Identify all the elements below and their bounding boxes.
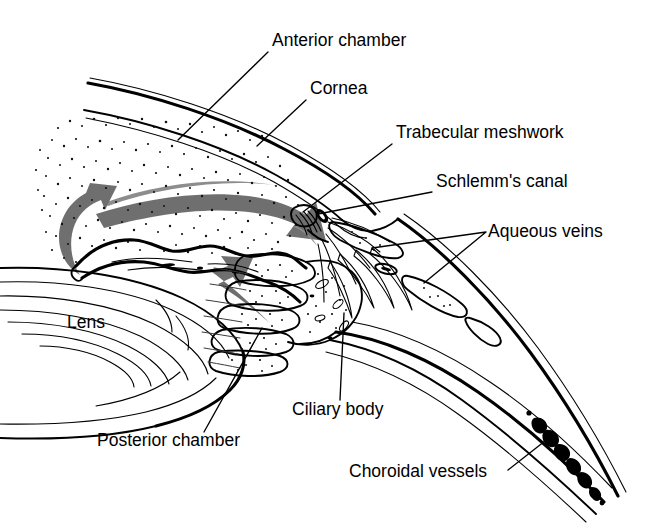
label-posterior-chamber: Posterior chamber [97,430,240,450]
label-schlemms-canal: Schlemm's canal [436,171,568,191]
choroidal-vessel-dot-1 [526,410,531,415]
iris-crypt-dot-2 [197,267,203,270]
eye-anatomy-drawing: Lens [0,0,666,529]
ciliary-vessel-dot-1 [310,295,315,298]
label-aqueous-veins: Aqueous veins [488,221,603,241]
choroidal-vessel-dot-2 [600,501,605,506]
eye-anatomy-figure: Lens [0,0,666,529]
label-cornea: Cornea [310,78,368,98]
label-choroidal-vessels: Choroidal vessels [349,461,487,481]
label-lens: Lens [67,312,105,332]
label-ciliary-body: Ciliary body [292,399,384,419]
label-trabecular-meshwork: Trabecular meshwork [396,122,564,142]
label-anterior-chamber: Anterior chamber [272,30,406,50]
